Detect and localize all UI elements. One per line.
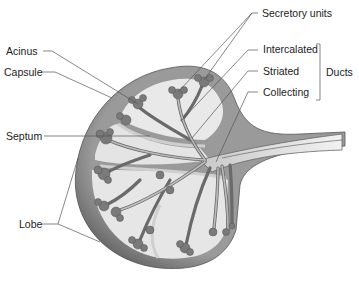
salivary-gland-diagram: Acinus Capsule Septum Lobe Secretory uni… <box>0 0 359 286</box>
label-septum: Septum <box>6 130 42 142</box>
label-intercalated: Intercalated <box>263 43 318 55</box>
label-striated: Striated <box>263 65 299 77</box>
label-capsule: Capsule <box>4 66 43 78</box>
label-ducts: Ducts <box>326 66 353 78</box>
label-lobe: Lobe <box>19 218 42 230</box>
label-acinus: Acinus <box>6 45 38 57</box>
label-collecting: Collecting <box>263 86 309 98</box>
label-secretory-units: Secretory units <box>262 7 332 19</box>
